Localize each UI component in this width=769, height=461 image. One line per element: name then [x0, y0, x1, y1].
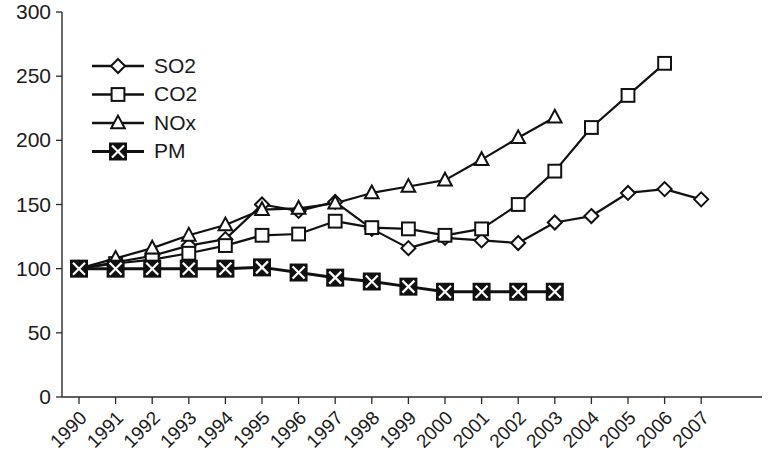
legend-label: NOx: [154, 111, 197, 134]
y-axis-tick-label: 50: [28, 321, 51, 344]
data-point-marker: [658, 57, 671, 70]
data-point-marker: [473, 284, 489, 300]
data-point-marker: [292, 228, 305, 241]
data-point-marker: [254, 259, 270, 275]
y-axis-tick-label: 250: [16, 64, 51, 87]
data-point-marker: [365, 221, 378, 234]
data-point-marker: [547, 284, 563, 300]
data-point-marker: [510, 284, 526, 300]
data-point-marker: [512, 198, 525, 211]
data-point-marker: [217, 260, 233, 276]
data-point-marker: [439, 229, 452, 242]
legend-label: PM: [154, 139, 186, 162]
data-point-marker: [437, 284, 453, 300]
y-axis-tick-label: 300: [16, 0, 51, 23]
data-point-marker: [107, 260, 123, 276]
data-point-marker: [71, 260, 87, 276]
data-point-marker: [110, 143, 126, 159]
y-axis-tick-label: 150: [16, 193, 51, 216]
data-point-marker: [402, 222, 415, 235]
data-point-marker: [475, 222, 488, 235]
y-axis-tick-label: 200: [16, 128, 51, 151]
data-point-marker: [181, 260, 197, 276]
legend-label: CO2: [154, 82, 197, 105]
data-point-marker: [364, 273, 380, 289]
data-point-marker: [548, 165, 561, 178]
chart-canvas: 050100150200250300 199019911992199319941…: [0, 0, 769, 461]
data-point-marker: [622, 89, 635, 102]
legend-label: SO2: [154, 54, 196, 77]
y-axis-tick-label: 100: [16, 257, 51, 280]
data-point-marker: [290, 264, 306, 280]
data-point-marker: [327, 269, 343, 285]
data-point-marker: [400, 278, 416, 294]
data-point-marker: [112, 88, 125, 101]
data-point-marker: [329, 215, 342, 228]
data-point-marker: [585, 121, 598, 134]
y-axis-tick-label: 0: [39, 385, 51, 408]
line-chart: 050100150200250300 199019911992199319941…: [0, 0, 769, 461]
data-point-marker: [219, 239, 232, 252]
data-point-marker: [182, 247, 195, 260]
data-point-marker: [144, 260, 160, 276]
data-point-marker: [256, 229, 269, 242]
